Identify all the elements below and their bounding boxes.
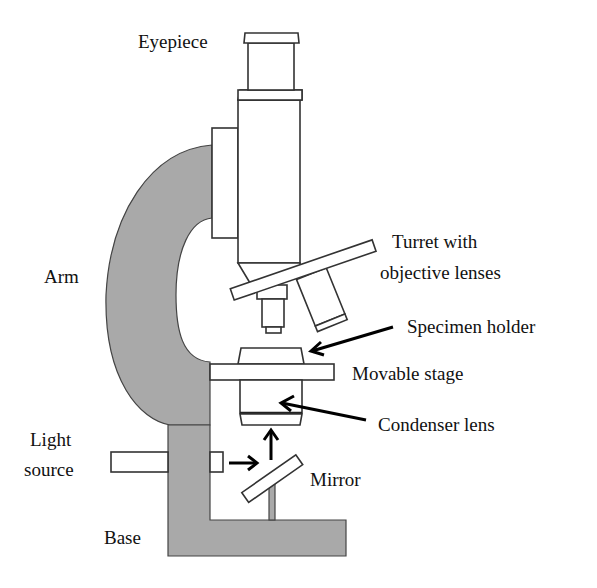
tube-top-rim bbox=[238, 90, 302, 100]
eyepiece-cap bbox=[244, 33, 299, 43]
objective-lens-1-tip bbox=[266, 327, 281, 333]
label-condenser-lens: Condenser lens bbox=[378, 414, 495, 435]
label-eyepiece: Eyepiece bbox=[138, 31, 208, 52]
light-source-left bbox=[111, 452, 168, 472]
specimen-arrow bbox=[311, 327, 393, 355]
label-specimen-holder: Specimen holder bbox=[407, 316, 536, 337]
eyepiece-tube bbox=[248, 43, 294, 90]
microscope-diagram: Eyepiece Turret with objective lenses Sp… bbox=[0, 0, 597, 588]
light-source-right bbox=[210, 452, 223, 472]
label-turret-line2: objective lenses bbox=[380, 262, 501, 283]
label-base: Base bbox=[104, 527, 141, 548]
objective-lens-1-lower bbox=[262, 299, 284, 327]
arm-block bbox=[212, 128, 238, 238]
label-movable-stage: Movable stage bbox=[352, 363, 463, 384]
label-arm: Arm bbox=[44, 266, 79, 287]
light-path-arrows bbox=[229, 430, 278, 470]
label-turret-line1: Turret with bbox=[392, 231, 478, 252]
label-light-line1: Light bbox=[30, 429, 72, 450]
arm-shape bbox=[106, 145, 212, 425]
label-light-line2: source bbox=[24, 459, 74, 480]
specimen-holder bbox=[238, 348, 304, 364]
stage bbox=[210, 364, 334, 380]
body-tube bbox=[238, 100, 300, 263]
condenser-base bbox=[240, 414, 302, 425]
label-mirror: Mirror bbox=[310, 469, 361, 490]
